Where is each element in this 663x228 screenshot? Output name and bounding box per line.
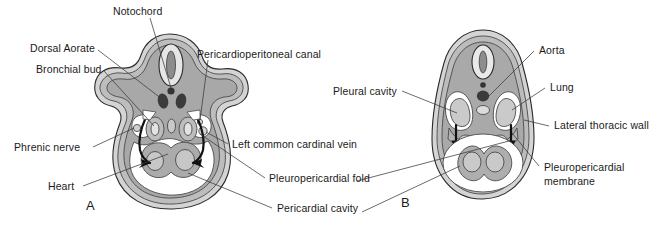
label-pericardioperitoneal-canal: Pericardioperitoneal canal (197, 48, 321, 61)
panel-b-section (432, 30, 534, 199)
panel-letter-a: A (86, 198, 95, 213)
a-heart-chamber-right (176, 150, 195, 171)
label-heart: Heart (48, 180, 74, 193)
b-notochord-structure (480, 82, 486, 88)
label-pleural-cavity: Pleural cavity (333, 85, 397, 98)
b-oesophagus (477, 106, 490, 115)
label-pleuropericardial-fold: Pleuropericardial fold (269, 172, 370, 185)
a-notochord-structure (167, 87, 174, 94)
a-foregut (168, 119, 176, 133)
anatomical-illustration: .ol{stroke:#2b2b2b;stroke-width:1.1;} .o… (0, 0, 663, 228)
label-left-common-cardinal-vein: Left common cardinal vein (232, 138, 357, 151)
label-phrenic-nerve: Phrenic nerve (14, 141, 80, 154)
label-pericardial-cavity: Pericardial cavity (277, 202, 358, 215)
leader-b-pericardial-cavity (362, 166, 460, 212)
b-heart-chamber-right (486, 152, 504, 172)
label-lateral-thoracic-wall: Lateral thoracic wall (554, 119, 649, 132)
a-phrenic-nerve-structure (133, 124, 140, 131)
b-neural-tube-canal (479, 51, 487, 73)
label-dorsal-aorate: Dorsal Aorate (30, 42, 95, 55)
label-pleuropericardial-membrane-line2: membrane (544, 175, 595, 188)
figure-canvas: .ol{stroke:#2b2b2b;stroke-width:1.1;} .o… (0, 0, 663, 228)
panel-letter-b: B (401, 195, 410, 210)
label-pleuropericardial-membrane-line1: Pleuropericardial (544, 161, 625, 174)
label-notochord: Notochord (113, 5, 162, 18)
b-aorta-structure (477, 91, 489, 102)
label-bronchial-bud: Bronchial bud (36, 63, 102, 76)
a-neural-tube-canal (167, 51, 176, 79)
b-heart-chamber-left (463, 152, 481, 172)
a-bronchial-bud-right-lumen (184, 123, 192, 136)
label-lung: Lung (550, 81, 574, 94)
label-aorta: Aorta (539, 44, 565, 57)
